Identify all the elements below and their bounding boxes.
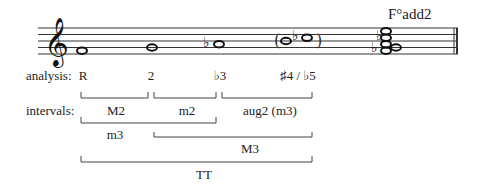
analysis-label: analysis: — [26, 69, 72, 82]
bracket-m2-minor — [154, 92, 216, 98]
note-cb — [302, 35, 312, 41]
interval-M3: M3 — [241, 142, 259, 155]
interval-m3: m3 — [107, 128, 124, 141]
bracket-aug2 — [222, 92, 312, 98]
treble-clef-icon: 𝄞 — [44, 17, 69, 68]
degree-b3: ♭3 — [214, 69, 227, 82]
note-ab — [214, 41, 224, 47]
intervals-label: intervals: — [26, 104, 74, 117]
paren-open: ( — [274, 31, 280, 50]
music-staff: 𝄞 ♭ ♭ ♭ ♭ ( ) — [0, 0, 477, 189]
bracket-tt — [81, 156, 312, 162]
interval-TT: TT — [196, 168, 212, 181]
interval-M2: M2 — [107, 104, 125, 117]
note-f — [77, 48, 87, 54]
bracket-m3 — [81, 117, 216, 123]
flat-icon: ♭ — [203, 34, 210, 50]
flat-icon: ♭ — [292, 27, 299, 43]
degree-root: R — [79, 69, 88, 82]
degree-2: 2 — [148, 69, 155, 82]
interval-aug2: aug2 (m3) — [243, 104, 297, 117]
bracket-m2 — [81, 92, 148, 98]
degree-s4-b5: ♯4 / ♭5 — [280, 69, 316, 82]
bracket-M3 — [154, 132, 312, 137]
flat-icon: ♭ — [376, 27, 383, 43]
paren-close: ) — [316, 31, 322, 50]
interval-m2: m2 — [179, 104, 196, 117]
chord-label: F°add2 — [388, 7, 432, 22]
